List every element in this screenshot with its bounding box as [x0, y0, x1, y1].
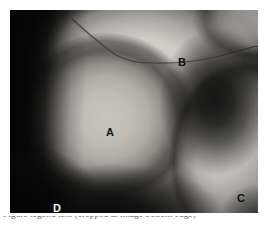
label-a: A	[106, 127, 114, 138]
bright-limb-layer	[10, 10, 258, 213]
top-right-highlight-layer	[10, 10, 258, 213]
dark-wedge-shadow-layer	[10, 10, 258, 213]
figure-caption-text: Figure legend text (cropped at image bot…	[3, 216, 275, 220]
photo-film-grain-layer	[10, 10, 258, 213]
label-b: B	[178, 57, 186, 68]
label-d: D	[53, 203, 61, 213]
upper-pale-sheet-layer	[10, 10, 258, 213]
rounded-mass-layer	[10, 10, 258, 213]
dark-bottom-left-pool-layer	[10, 10, 258, 213]
anatomical-photograph: A B C D	[10, 10, 258, 213]
skin-fold-crease-icon	[10, 10, 258, 213]
dark-left-column-layer	[10, 10, 258, 213]
figure-caption-strip: Figure legend text (cropped at image bot…	[0, 216, 275, 230]
screenshot-root: A B C D Figure legend text (cropped at i…	[0, 0, 275, 230]
dark-bottom-trough-layer	[10, 10, 258, 213]
dim-bottom-right-layer	[10, 10, 258, 213]
label-c: C	[237, 193, 245, 204]
photo-base-tone-layer	[10, 10, 258, 213]
photo-vignette-layer	[10, 10, 258, 213]
